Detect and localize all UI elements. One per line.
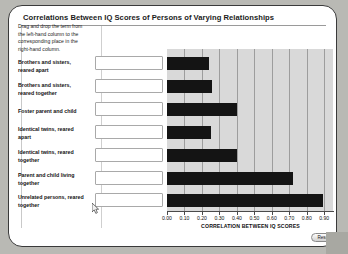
x-axis-line <box>167 211 334 212</box>
drop-box-3[interactable] <box>95 125 163 139</box>
row-label-2[interactable]: Foster parent and child <box>18 108 88 116</box>
bar-5 <box>167 172 293 185</box>
bar-0 <box>167 57 209 70</box>
bar-6 <box>167 194 323 207</box>
screenshot-root: Correlations Between IQ Scores of Person… <box>0 0 348 254</box>
drop-box-0[interactable] <box>95 56 163 70</box>
drop-box-2[interactable] <box>95 102 163 116</box>
x-axis-title: CORRELATION BETWEEN IQ SCORES <box>167 223 334 229</box>
drop-box-4[interactable] <box>95 148 163 162</box>
row-label-3[interactable]: Identical twins, reared apart <box>18 126 88 141</box>
arrow-cursor-icon <box>92 203 100 214</box>
bar-3 <box>167 126 211 139</box>
bar-4 <box>167 149 237 162</box>
instructions-text: Drag and drop the term from the left-han… <box>18 23 86 53</box>
row-label-5[interactable]: Parent and child living together <box>18 172 88 187</box>
row-label-0[interactable]: Brothers and sisters, reared apart <box>18 59 88 74</box>
bar-1 <box>167 80 212 93</box>
gridline-4 <box>237 49 238 212</box>
gridline-7 <box>289 49 290 212</box>
gridline-6 <box>272 49 273 212</box>
bar-2 <box>167 103 237 116</box>
drop-box-6[interactable] <box>95 193 163 207</box>
gridline-8 <box>307 49 308 212</box>
drop-box-5[interactable] <box>95 171 163 185</box>
drop-box-1[interactable] <box>95 79 163 93</box>
row-label-4[interactable]: Identical twins, reared together <box>18 149 88 164</box>
gridline-3 <box>219 49 220 212</box>
page-title: Correlations Between IQ Scores of Person… <box>23 13 323 22</box>
row-label-1[interactable]: Brothers and sisters, reared together <box>18 82 88 97</box>
x-tick-label-9: 0.90 <box>314 215 334 221</box>
row-label-6[interactable]: Unrelated persons, reared together <box>18 194 88 209</box>
page-corner <box>326 232 348 254</box>
gridline-9 <box>324 49 325 212</box>
gridline-5 <box>254 49 255 212</box>
